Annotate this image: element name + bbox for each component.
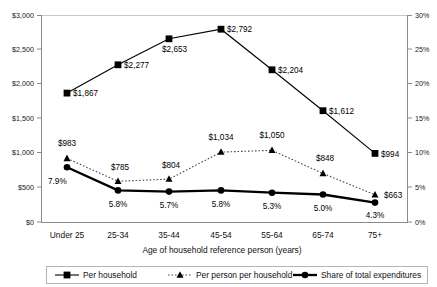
data-label: $1,034 — [208, 133, 233, 142]
right-tick-label-25: 25% — [415, 45, 430, 54]
circle-marker-icon — [302, 272, 309, 279]
left-tick-label-2500: $2,500 — [12, 45, 34, 54]
left-axis-ticks — [37, 16, 41, 223]
data-label: $2,792 — [227, 25, 252, 34]
category-label: Under 25 — [50, 230, 85, 240]
left-tick-label-3000: $3,000 — [12, 11, 34, 20]
data-label: $1,867 — [73, 89, 98, 98]
right-tick-label-10: 10% — [415, 148, 430, 157]
data-labels-share: 7.9% 5.8% 5.7% 5.8% 5.3% 5.0% 4.3% — [48, 177, 384, 220]
left-tick-label-1000: $1,000 — [12, 148, 34, 157]
legend-label: Per household — [83, 270, 137, 280]
legend-label: Share of total expenditures — [321, 270, 421, 280]
data-label: 5.7% — [160, 201, 179, 210]
data-label: $1,612 — [329, 107, 354, 116]
left-tick-label-0: $0 — [26, 218, 34, 227]
data-label: $2,653 — [162, 45, 187, 54]
data-label: 4.3% — [366, 211, 385, 220]
data-label: 5.3% — [263, 202, 282, 211]
data-labels-per-household: $1,867 $2,277 $2,653 $2,792 $2,204 $1,61… — [73, 25, 400, 159]
data-label: $983 — [58, 139, 77, 148]
category-label: 45-54 — [210, 230, 232, 240]
right-tick-label-5: 5% — [415, 183, 426, 192]
square-marker-icon — [64, 272, 71, 279]
data-label: 7.9% — [48, 177, 67, 186]
data-label: $785 — [111, 163, 130, 172]
x-axis-title: Age of household reference person (years… — [142, 245, 301, 255]
data-label: $2,277 — [124, 61, 149, 70]
data-label: $848 — [316, 154, 335, 163]
category-label: 25-34 — [107, 230, 129, 240]
data-label: $1,050 — [259, 131, 284, 140]
data-label: 5.0% — [314, 204, 333, 213]
data-label: 5.8% — [109, 200, 128, 209]
left-tick-label-2000: $2,000 — [12, 79, 34, 88]
category-label: 75+ — [368, 230, 382, 240]
right-tick-label-30: 30% — [415, 11, 430, 20]
chart-legend: Per household Per person per household S… — [47, 267, 428, 284]
data-label: $2,204 — [278, 66, 303, 75]
category-label: 55-64 — [261, 230, 283, 240]
category-label: 65-74 — [312, 230, 334, 240]
series-line-share — [67, 167, 375, 202]
data-label: $994 — [381, 150, 400, 159]
chart-canvas: $3,000 $2,500 $2,000 $1,500 $1,000 $500 … — [0, 0, 437, 287]
x-axis-category-labels: Under 25 25-34 35-44 45-54 55-64 65-74 7… — [50, 230, 382, 240]
left-tick-label-500: $500 — [18, 183, 34, 192]
right-tick-label-15: 15% — [415, 114, 430, 123]
chart-container: $3,000 $2,500 $2,000 $1,500 $1,000 $500 … — [0, 0, 437, 287]
data-labels-per-person: $983 $785 $804 $1,034 $1,050 $848 $663 — [58, 131, 403, 200]
left-tick-label-1500: $1,500 — [12, 114, 34, 123]
category-label: 35-44 — [158, 230, 180, 240]
right-axis-ticks — [408, 16, 412, 223]
right-tick-label-20: 20% — [415, 79, 430, 88]
legend-label: Per person per household — [196, 270, 293, 280]
data-label: $663 — [384, 191, 403, 200]
data-label: 5.8% — [212, 200, 231, 209]
right-tick-label-0: 0% — [415, 218, 426, 227]
data-label: $804 — [162, 161, 181, 170]
